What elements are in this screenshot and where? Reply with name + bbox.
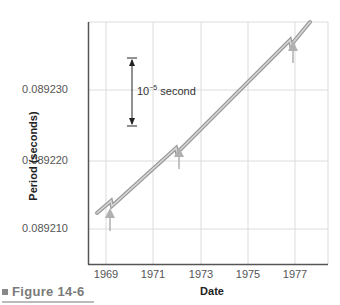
chart-plot-area <box>0 0 340 305</box>
y-tick-label: 0.089230 <box>22 83 68 95</box>
bullet-square-icon <box>2 289 8 295</box>
scale-bar <box>127 58 137 126</box>
scale-annotation: 10−5 second <box>137 84 196 97</box>
figure-caption: Figure 14-6 <box>2 284 85 299</box>
x-tick-label: 1971 <box>141 268 165 280</box>
y-tick-label: 0.089210 <box>22 222 68 234</box>
x-tick-label: 1973 <box>189 268 213 280</box>
x-tick-label: 1969 <box>94 268 118 280</box>
x-axis-label: Date <box>200 285 224 297</box>
period-line <box>97 22 310 213</box>
x-tick-label: 1975 <box>236 268 260 280</box>
y-axis-label: Period (seconds) <box>27 101 39 211</box>
grid-lines <box>88 22 328 264</box>
caption-underline <box>2 301 94 303</box>
x-tick-label: 1977 <box>283 268 307 280</box>
